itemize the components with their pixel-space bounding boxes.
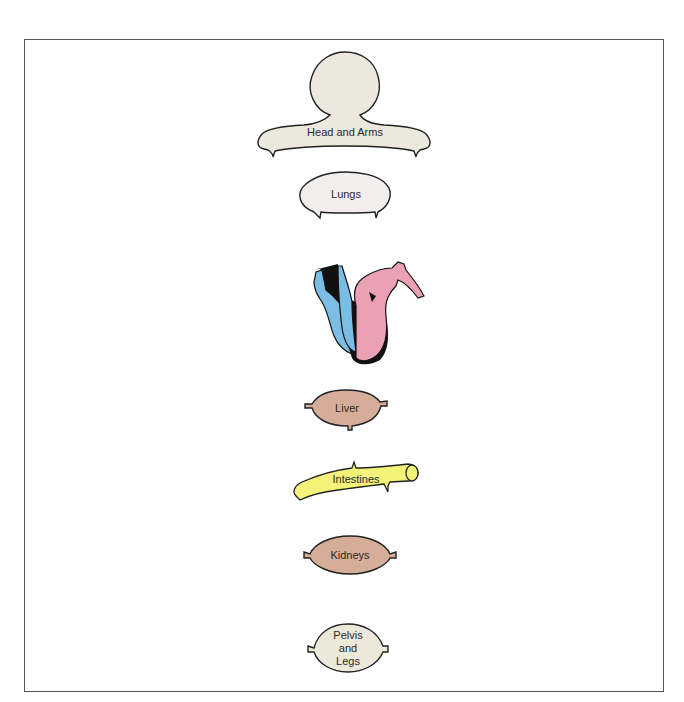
intestines-label: Intestines xyxy=(332,473,379,486)
kidneys-label: Kidneys xyxy=(330,549,369,562)
head-and-arms-label: Head and Arms xyxy=(307,126,383,139)
liver-label: Liver xyxy=(335,402,359,415)
pelvis-legs-label: Pelvis and Legs xyxy=(333,629,362,668)
pelvis-legs-label-line-3: Legs xyxy=(333,655,362,668)
circulatory-diagram xyxy=(0,0,684,702)
pelvis-legs-label-line-1: Pelvis xyxy=(333,629,362,642)
head-and-arms-shape xyxy=(258,52,430,157)
pelvis-legs-label-line-2: and xyxy=(333,642,362,655)
lungs-label: Lungs xyxy=(331,188,361,201)
heart-shape xyxy=(314,262,424,364)
